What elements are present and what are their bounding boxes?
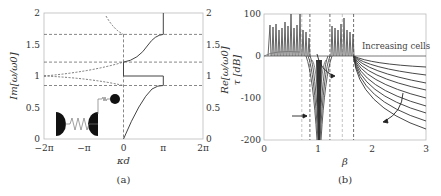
im-curve <box>44 16 124 86</box>
svg-text:2: 2 <box>206 8 212 18</box>
a-xlabel: κd <box>116 155 130 166</box>
svg-text:0: 0 <box>121 143 127 153</box>
b-xticks: 0 1 2 3 <box>261 144 429 154</box>
vlines-b <box>302 14 354 140</box>
svg-text:1.5: 1.5 <box>26 40 41 50</box>
svg-text:2π: 2π <box>197 143 209 153</box>
svg-text:2: 2 <box>369 144 375 154</box>
passband-peaks <box>264 14 354 56</box>
svg-text:100: 100 <box>244 9 261 19</box>
mass-spring-inset <box>56 94 120 136</box>
svg-text:0.5: 0.5 <box>206 103 221 113</box>
hlines-a <box>44 34 203 139</box>
annotation-increasing-cells: Increasing cells <box>362 41 430 51</box>
svg-text:1: 1 <box>34 71 40 81</box>
svg-text:π: π <box>160 143 166 153</box>
figure: 0 0.5 1 1.5 2 0 0.5 1 1.5 2 −2π −π 0 π 2… <box>0 0 441 196</box>
svg-text:0: 0 <box>255 51 261 61</box>
caption-a: (a) <box>117 174 131 185</box>
svg-text:1: 1 <box>315 144 321 154</box>
a-yticks-left: 0 0.5 1 1.5 2 <box>26 8 41 144</box>
svg-text:3: 3 <box>423 144 429 154</box>
stopband-dip <box>306 56 332 140</box>
b-xlabel: β <box>341 156 348 167</box>
re-curve <box>124 13 164 139</box>
a-ylabel-right: Re[ω/ω0] <box>219 46 230 94</box>
svg-text:0: 0 <box>261 144 267 154</box>
a-xticks: −2π −π 0 π 2π <box>34 143 208 153</box>
panel-b: Increasing cells 100 0 -100 -200 0 1 2 3… <box>219 9 430 185</box>
svg-text:1: 1 <box>206 71 212 81</box>
panel-a: 0 0.5 1 1.5 2 0 0.5 1 1.5 2 −2π −π 0 π 2… <box>8 8 221 185</box>
svg-text:−π: −π <box>77 143 91 153</box>
svg-text:0.5: 0.5 <box>26 103 41 113</box>
b-ylabel: τ [dB] <box>231 55 242 85</box>
a-ylabel-left: Im[ω/ω0] <box>8 52 19 100</box>
caption-b: (b) <box>338 174 352 185</box>
svg-text:−2π: −2π <box>34 143 53 153</box>
svg-text:2: 2 <box>34 8 40 18</box>
b-yticks: 100 0 -100 -200 <box>241 9 262 145</box>
svg-text:-200: -200 <box>241 135 261 145</box>
svg-text:-100: -100 <box>241 93 261 103</box>
